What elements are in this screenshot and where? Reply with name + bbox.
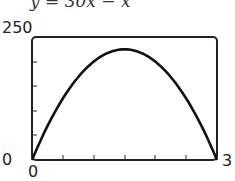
plot-frame <box>32 37 217 160</box>
curve-line <box>32 49 217 160</box>
plot-area <box>0 0 235 181</box>
